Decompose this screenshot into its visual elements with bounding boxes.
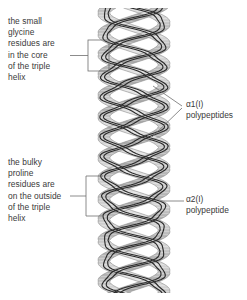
helix-strand-group [98, 8, 170, 293]
label-alpha2-polypeptide: α2(I) polypeptide [186, 194, 246, 216]
callout-glycine-residues: the small glycine residues are in the co… [8, 16, 84, 83]
label-alpha1-polypeptides: α1(I) polypeptides [186, 99, 246, 121]
collagen-triple-helix-figure: the small glycine residues are in the co… [0, 0, 247, 300]
callout-proline-residues: the bulky proline residues are on the ou… [8, 157, 92, 224]
